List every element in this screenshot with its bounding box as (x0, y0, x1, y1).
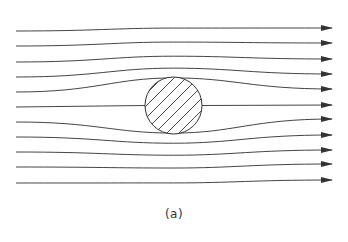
streamline (16, 56, 332, 62)
streamline (16, 150, 332, 155)
streamline (16, 164, 332, 168)
streamline (16, 28, 332, 31)
streamline (16, 68, 332, 77)
figure-caption: (a) (0, 207, 348, 221)
cylinder (130, 70, 216, 138)
streamline (16, 42, 332, 46)
flow-diagram (0, 0, 348, 242)
streamline (16, 135, 332, 143)
streamline (16, 180, 332, 183)
